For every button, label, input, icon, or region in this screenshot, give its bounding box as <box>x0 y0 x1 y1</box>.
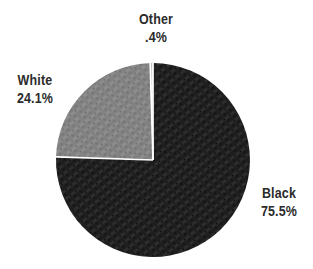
pie-label-black: Black 75.5% <box>252 185 305 219</box>
pie-label-black-name: Black <box>252 185 305 201</box>
pie-label-other: Other .4% <box>119 11 193 45</box>
pie-chart-figure: Other .4% White 24.1% Black 75.5% <box>0 0 313 269</box>
pie-slice-white[interactable] <box>56 63 153 160</box>
pie-label-other-value: .4% <box>119 29 193 45</box>
pie-label-white-value: 24.1% <box>7 90 64 106</box>
pie-label-other-name: Other <box>119 11 193 27</box>
pie-label-white: White 24.1% <box>7 72 64 106</box>
pie-label-white-name: White <box>7 72 64 88</box>
pie-label-black-value: 75.5% <box>252 203 305 219</box>
